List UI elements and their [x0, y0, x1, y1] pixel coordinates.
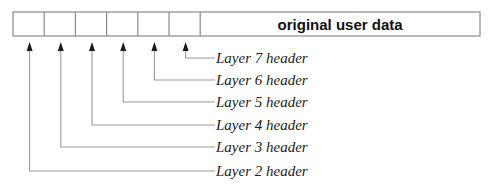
- leader-line: [92, 48, 215, 125]
- arrow-up-icon: [120, 42, 126, 51]
- leader-line: [123, 48, 215, 102]
- arrow-up-icon: [151, 42, 157, 51]
- payload-label: original user data: [278, 16, 404, 33]
- header-callout: Layer 7 header: [183, 42, 308, 66]
- header-callouts: Layer 7 headerLayer 6 headerLayer 5 head…: [27, 42, 308, 179]
- leader-line: [61, 48, 215, 147]
- arrow-up-icon: [58, 42, 64, 51]
- layer-header-label: Layer 7 header: [215, 50, 308, 66]
- layer-header-label: Layer 3 header: [215, 139, 308, 155]
- layer-header-label: Layer 4 header: [215, 117, 308, 133]
- leader-line: [30, 48, 215, 171]
- layer-header-label: Layer 5 header: [215, 94, 308, 110]
- layer-header-label: Layer 6 header: [215, 72, 308, 88]
- leader-line: [186, 48, 215, 58]
- arrow-up-icon: [89, 42, 95, 51]
- arrow-up-icon: [183, 42, 189, 51]
- encapsulation-diagram: original user data Layer 7 headerLayer 6…: [0, 0, 495, 189]
- arrow-up-icon: [27, 42, 33, 51]
- leader-line: [154, 48, 215, 80]
- packet: original user data: [13, 12, 480, 36]
- packet-box: [13, 12, 480, 36]
- layer-header-label: Layer 2 header: [215, 163, 308, 179]
